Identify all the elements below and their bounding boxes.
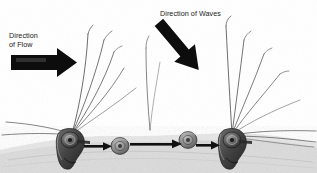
mobile-grain-2 xyxy=(179,132,197,149)
direction-of-waves-label: Direction of Waves xyxy=(160,10,221,19)
diagram-canvas: Directionof Flow Direction of Waves xyxy=(0,0,317,173)
sandy-seabed xyxy=(0,126,317,173)
direction-of-flow-label: Directionof Flow xyxy=(9,32,38,49)
mobile-grain-1 xyxy=(111,138,129,155)
flow-label-line-2: of Flow xyxy=(9,40,33,49)
diagram-illustration xyxy=(0,0,317,173)
